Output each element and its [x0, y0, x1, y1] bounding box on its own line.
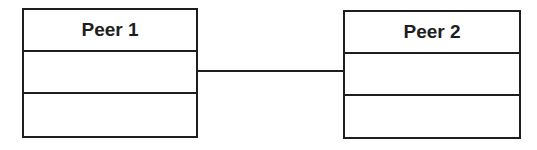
peer-2-operations-compartment: [345, 96, 519, 137]
peer-1-class-box: Peer 1: [22, 8, 198, 138]
association-line: [198, 70, 343, 72]
peer-1-attributes-compartment: [24, 52, 196, 94]
peer-1-operations-compartment: [24, 94, 196, 136]
peer-2-title: Peer 2: [345, 12, 519, 54]
peer-2-class-box: Peer 2: [343, 10, 521, 139]
peer-2-attributes-compartment: [345, 54, 519, 96]
peer-1-title: Peer 1: [24, 10, 196, 52]
